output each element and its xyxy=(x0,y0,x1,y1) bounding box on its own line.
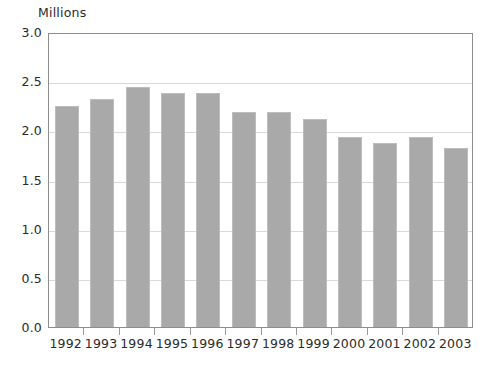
bar xyxy=(338,137,362,327)
x-tick-label: 1995 xyxy=(154,336,189,351)
y-tick-label: 2.0 xyxy=(2,123,42,138)
bar xyxy=(232,112,256,327)
x-tick-label: 2003 xyxy=(438,336,473,351)
bar xyxy=(90,99,114,327)
x-tick-mark xyxy=(367,328,368,335)
x-tick-mark xyxy=(296,328,297,335)
bar xyxy=(444,148,468,327)
bar xyxy=(55,106,79,327)
bar xyxy=(267,112,291,327)
x-tick-mark xyxy=(154,328,155,335)
plot-area xyxy=(48,33,473,328)
x-tick-label: 2002 xyxy=(402,336,437,351)
y-tick-label: 3.0 xyxy=(2,25,42,40)
x-tick-label: 1999 xyxy=(296,336,331,351)
y-tick-label: 2.5 xyxy=(2,74,42,89)
x-tick-mark xyxy=(261,328,262,335)
x-tick-label: 1994 xyxy=(119,336,154,351)
x-tick-mark xyxy=(119,328,120,335)
x-tick-mark xyxy=(438,328,439,335)
x-tick-mark xyxy=(190,328,191,335)
bar xyxy=(409,137,433,327)
x-tick-label: 1998 xyxy=(261,336,296,351)
x-tick-mark xyxy=(402,328,403,335)
y-tick-label: 1.5 xyxy=(2,173,42,188)
bar xyxy=(126,87,150,327)
bar xyxy=(196,93,220,327)
y-tick-label: 0.0 xyxy=(2,320,42,335)
x-tick-mark xyxy=(225,328,226,335)
x-tick-mark xyxy=(83,328,84,335)
x-axis-tick-label-group: 1992199319941995199619971998199920002001… xyxy=(48,336,473,358)
y-tick-label: 0.5 xyxy=(2,271,42,286)
bar xyxy=(303,119,327,327)
x-axis-tick-group xyxy=(48,328,473,336)
bar xyxy=(373,143,397,327)
x-tick-label: 1993 xyxy=(83,336,118,351)
gridline xyxy=(49,83,472,84)
x-tick-label: 1992 xyxy=(48,336,83,351)
x-tick-label: 2000 xyxy=(331,336,366,351)
x-tick-label: 2001 xyxy=(367,336,402,351)
x-tick-label: 1997 xyxy=(225,336,260,351)
y-tick-label: 1.0 xyxy=(2,222,42,237)
x-tick-label: 1996 xyxy=(190,336,225,351)
x-tick-mark xyxy=(331,328,332,335)
bar-chart-figure: Millions 0.00.51.01.52.02.53.0 199219931… xyxy=(0,0,489,365)
bar xyxy=(161,93,185,327)
